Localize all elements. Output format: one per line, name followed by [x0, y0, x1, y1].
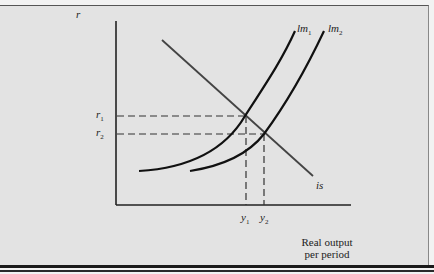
is-label: is [316, 179, 323, 191]
islm-diagram [0, 0, 434, 274]
y2-label: y2 [260, 211, 268, 226]
y1-label: y1 [241, 211, 249, 226]
bottom-rule [0, 265, 434, 268]
lm1-curve [139, 31, 295, 171]
x-axis-label: Real output per period [292, 236, 362, 260]
lm1-label: lm1 [297, 22, 312, 37]
x-axis-label-line2: per period [292, 248, 362, 260]
y-axis-label: r [76, 8, 80, 20]
r2-label: r2 [96, 126, 104, 141]
bottom-rule-secondary [0, 270, 434, 272]
lm2-label: lm2 [328, 22, 343, 37]
x-axis-label-line1: Real output [292, 236, 362, 248]
lm2-curve [190, 31, 324, 171]
r1-label: r1 [96, 108, 104, 123]
